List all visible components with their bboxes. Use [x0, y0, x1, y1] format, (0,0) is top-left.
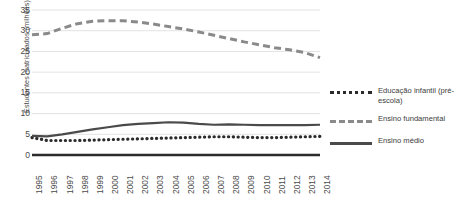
legend-item-educacao-infantil: Educação infantil (pré-escola): [330, 86, 455, 114]
x-tick-label: 2009: [247, 175, 255, 194]
x-tick-label: 1996: [50, 175, 58, 194]
chart-container: Estudantes matriculados (milhões) 051015…: [0, 0, 455, 197]
x-tick-label: 1998: [81, 175, 89, 194]
dotted-line-swatch-icon: [330, 91, 372, 98]
x-tick-label: 2002: [141, 175, 149, 194]
x-tick-label: 2008: [232, 175, 240, 194]
x-tick-label: 2011: [278, 176, 286, 194]
x-tick-label: 2006: [202, 175, 210, 194]
y-axis-ticks: 05101520253035: [0, 0, 30, 160]
y-tick-label: 5: [8, 130, 30, 139]
chart-legend: Educação infantil (pré-escola) Ensino fu…: [330, 86, 455, 158]
x-tick-label: 1999: [96, 175, 104, 194]
x-tick-label: 2012: [293, 175, 301, 194]
legend-label-educacao-infantil: Educação infantil (pré-escola): [378, 86, 455, 105]
y-tick-label: 35: [8, 6, 30, 15]
x-axis-ticks: 1995199619971998199920002001200220032004…: [0, 158, 455, 197]
x-tick-label: 1997: [66, 175, 74, 194]
x-tick-label: 2005: [187, 175, 195, 194]
x-tick-label: 2010: [263, 175, 271, 194]
y-tick-label: 10: [8, 109, 30, 118]
x-tick-label: 2014: [323, 175, 331, 194]
x-tick-label: 2003: [156, 175, 164, 194]
x-tick-label: 2001: [126, 175, 134, 194]
y-tick-label: 15: [8, 88, 30, 97]
legend-item-ensino-medio: Ensino médio: [330, 136, 455, 158]
series-line-2: [32, 21, 320, 58]
series-line-1: [32, 136, 320, 140]
legend-item-ensino-fundamental: Ensino fundamental: [330, 114, 455, 136]
x-tick-label: 2007: [217, 175, 225, 194]
dashed-line-swatch-icon: [330, 120, 372, 127]
x-tick-label: 2013: [308, 175, 316, 194]
x-tick-label: 2004: [172, 175, 180, 194]
solid-line-swatch-icon: [330, 142, 372, 149]
x-tick-label: 1995: [35, 175, 43, 194]
y-tick-label: 30: [8, 26, 30, 35]
y-tick-label: 25: [8, 47, 30, 56]
legend-label-ensino-fundamental: Ensino fundamental: [378, 114, 445, 124]
legend-label-ensino-medio: Ensino médio: [378, 136, 424, 146]
y-tick-label: 20: [8, 68, 30, 77]
x-tick-label: 2000: [111, 175, 119, 194]
